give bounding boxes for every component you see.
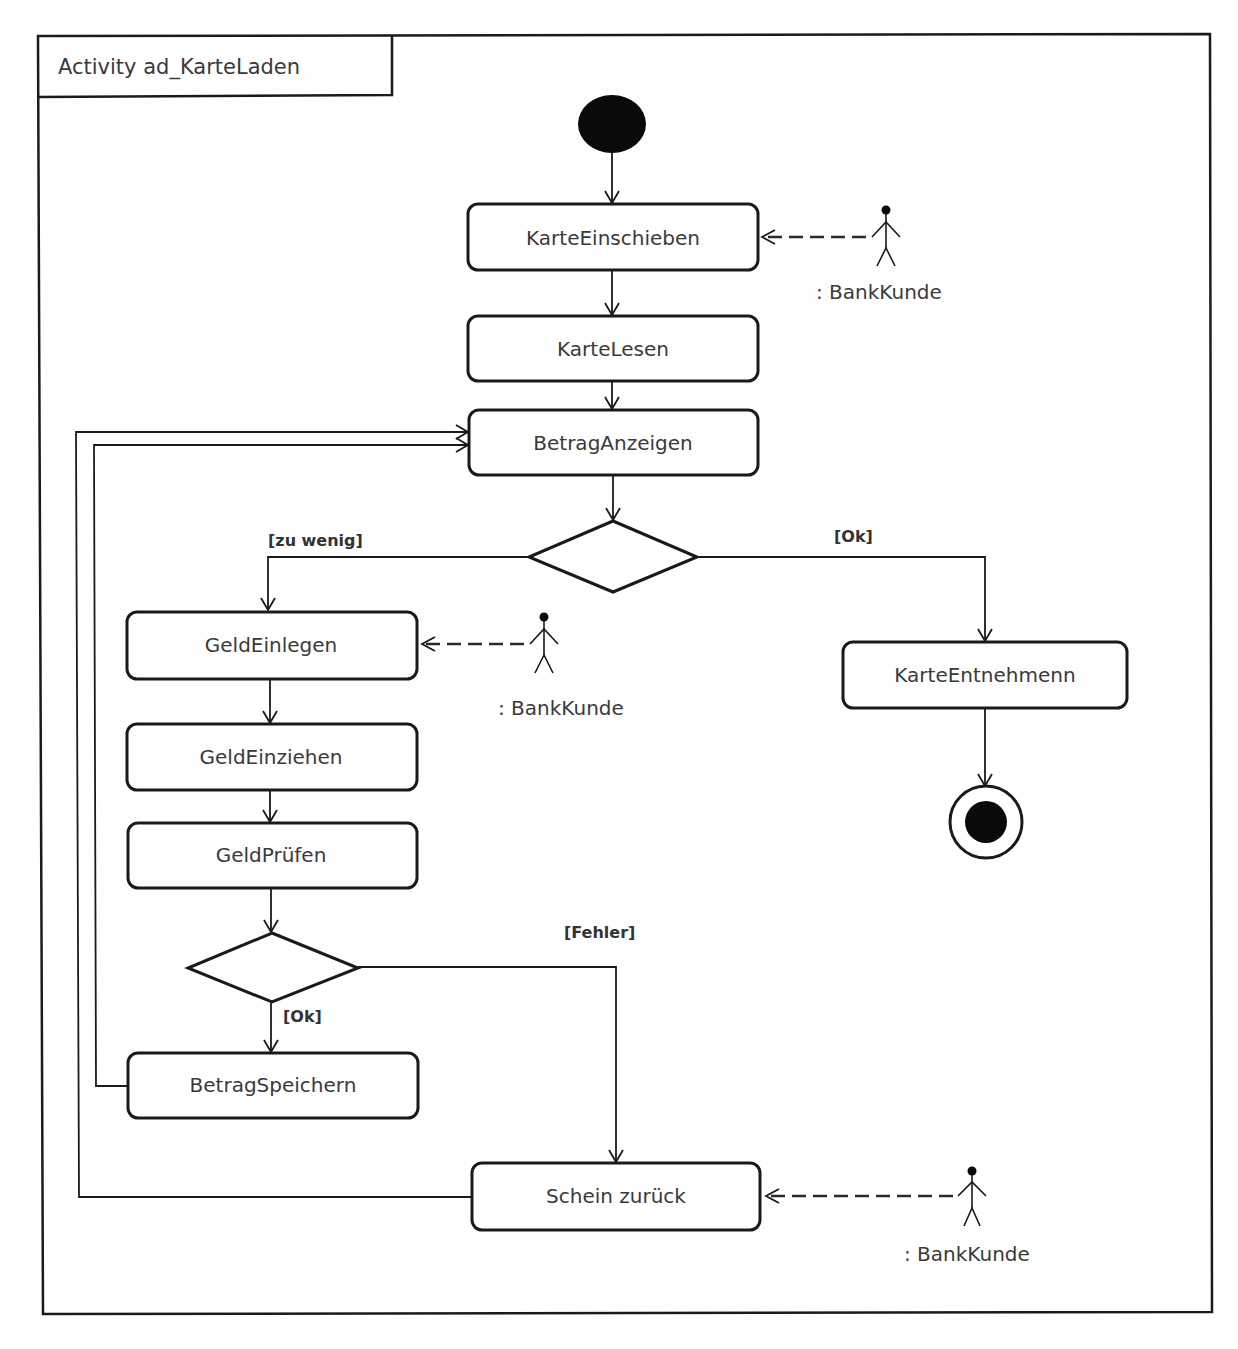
actor-label: : BankKunde	[816, 280, 942, 304]
initial-node	[578, 95, 646, 153]
action-label: Schein zurück	[546, 1184, 686, 1208]
action-karteeinschieben[interactable]: KarteEinschieben	[468, 204, 758, 270]
action-betragspeichern[interactable]: BetragSpeichern	[128, 1053, 418, 1118]
edge-kartelesen-to-betraganzeigen	[605, 382, 619, 409]
action-geldpruefen[interactable]: GeldPrüfen	[128, 823, 417, 888]
edge-geldpruefen-to-decision	[264, 889, 278, 932]
guard-ok-check: [Ok]	[283, 1007, 322, 1026]
edge-decision-to-geldeinlegen	[261, 557, 529, 610]
action-label: GeldEinlegen	[205, 633, 337, 657]
edge-decision-to-karteentnehmen	[697, 557, 992, 641]
dependency-actor3-to-scheinzurueck	[766, 1189, 953, 1203]
edge-betraganzeigen-to-decision	[606, 476, 620, 520]
actor-icon	[958, 1167, 986, 1227]
edge-karteentnehmen-to-final	[978, 709, 992, 786]
action-label: KarteEntnehmenn	[894, 663, 1075, 687]
actor-label: : BankKunde	[904, 1242, 1030, 1266]
actor-icon	[530, 613, 558, 674]
action-kartelesen[interactable]: KarteLesen	[468, 316, 758, 381]
action-label: GeldEinziehen	[200, 745, 343, 769]
guard-fehler: [Fehler]	[564, 923, 635, 942]
dependency-actor1-to-karteeinschieben	[762, 230, 866, 244]
action-label: BetragAnzeigen	[533, 431, 692, 455]
action-label: GeldPrüfen	[216, 843, 327, 867]
guard-ok: [Ok]	[834, 527, 873, 546]
actor-label: : BankKunde	[498, 696, 624, 720]
edge-geldeinlegen-to-geldeinziehen	[263, 680, 277, 723]
action-scheinzurueck[interactable]: Schein zurück	[472, 1163, 760, 1230]
action-geldeinziehen[interactable]: GeldEinziehen	[127, 724, 417, 790]
action-label: KarteLesen	[557, 337, 669, 361]
action-geldeinlegen[interactable]: GeldEinlegen	[127, 612, 417, 679]
activity-diagram: Activity ad_KarteLaden KarteEinschieben …	[0, 0, 1238, 1349]
edge-geldeinziehen-to-geldpruefen	[263, 791, 277, 822]
guard-zu-wenig: [zu wenig]	[268, 531, 363, 550]
decision-node-geld	[188, 933, 358, 1002]
action-karteentnehmen[interactable]: KarteEntnehmenn	[843, 642, 1127, 708]
dependency-actor2-to-geldeinlegen	[422, 637, 524, 651]
actor-icon	[872, 206, 900, 267]
action-label: BetragSpeichern	[190, 1073, 357, 1097]
action-betraganzeigen[interactable]: BetragAnzeigen	[469, 410, 758, 475]
edge-initial-to-karteeinschieben	[605, 153, 619, 203]
edge-decision-to-betragspeichern	[264, 1003, 278, 1052]
decision-node-betrag	[529, 521, 697, 592]
activity-final-node	[950, 786, 1022, 858]
edge-karteeinschieben-to-kartelesen	[605, 271, 619, 315]
frame-title: Activity ad_KarteLaden	[58, 55, 300, 80]
action-label: KarteEinschieben	[526, 226, 700, 250]
frame-title-tab: Activity ad_KarteLaden	[38, 35, 392, 97]
